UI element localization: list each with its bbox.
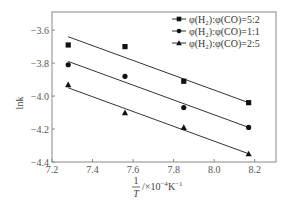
square-marker bbox=[122, 44, 127, 49]
x-axis-ticks: 7.27.47.67.88.08.2 bbox=[46, 159, 261, 175]
series-triangle bbox=[65, 81, 252, 156]
circle-marker bbox=[181, 105, 186, 110]
x-label-numerator: 1 bbox=[134, 175, 139, 186]
triangle-marker bbox=[122, 109, 128, 115]
legend-circle-icon bbox=[177, 29, 182, 34]
y-tick-label: −4.4 bbox=[31, 157, 49, 168]
data-series bbox=[65, 37, 252, 157]
x-label-unit: /×10−4K−1 bbox=[142, 180, 183, 192]
circle-marker bbox=[246, 125, 251, 130]
legend-item: φ(H₂):φ(CO)=1:1 bbox=[172, 26, 260, 38]
legend-item: φ(H₂):φ(CO)=5:2 bbox=[172, 14, 260, 26]
y-tick-label: −3.8 bbox=[31, 58, 49, 69]
triangle-marker bbox=[181, 124, 187, 130]
square-marker bbox=[181, 79, 186, 84]
square-marker bbox=[246, 100, 251, 105]
circle-marker bbox=[122, 74, 127, 79]
x-tick-label: 8.0 bbox=[208, 164, 221, 175]
triangle-marker bbox=[65, 81, 71, 87]
legend-item: φ(H₂):φ(CO)=2:5 bbox=[172, 38, 260, 50]
square-marker bbox=[66, 42, 71, 47]
legend: φ(H₂):φ(CO)=5:2φ(H₂):φ(CO)=1:1φ(H₂):φ(CO… bbox=[172, 14, 260, 50]
legend-square-icon bbox=[177, 17, 182, 22]
fit-line bbox=[68, 88, 248, 154]
y-tick-label: −4.2 bbox=[31, 124, 49, 135]
y-axis-ticks: −3.6−3.8−4.0−4.2−4.4 bbox=[31, 25, 55, 168]
x-tick-label: 7.4 bbox=[86, 164, 99, 175]
triangle-marker bbox=[246, 151, 252, 157]
chart: 7.27.47.67.88.08.2 −3.6−3.8−4.0−4.2−4.4 … bbox=[0, 0, 289, 202]
x-axis-label: 1T/×10−4K−1 bbox=[132, 175, 183, 199]
fit-line bbox=[68, 61, 248, 127]
legend-label: φ(H₂):φ(CO)=5:2 bbox=[189, 14, 260, 26]
y-tick-label: −4.0 bbox=[31, 91, 49, 102]
y-tick-label: −3.6 bbox=[31, 25, 49, 36]
circle-marker bbox=[66, 62, 71, 67]
legend-label: φ(H₂):φ(CO)=1:1 bbox=[189, 26, 260, 38]
x-tick-label: 8.2 bbox=[248, 164, 261, 175]
x-tick-label: 7.8 bbox=[167, 164, 180, 175]
x-tick-label: 7.6 bbox=[127, 164, 140, 175]
series-circle bbox=[66, 61, 252, 130]
x-label-denominator: T bbox=[133, 188, 140, 199]
legend-label: φ(H₂):φ(CO)=2:5 bbox=[189, 38, 260, 50]
y-axis-label: lnk bbox=[14, 97, 25, 110]
